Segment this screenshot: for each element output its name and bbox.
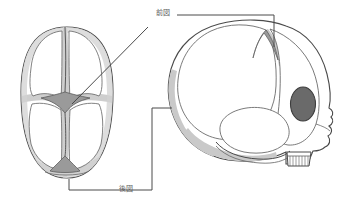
orbit-eye-socket <box>291 87 316 121</box>
skull-illustration-svg <box>0 0 347 208</box>
leader-posterior-tick <box>69 179 117 190</box>
label-anterior-fontanelle: 前図 <box>156 9 170 17</box>
maxilla-teeth-lateral <box>287 152 311 166</box>
temporal-bone-lateral <box>220 107 289 153</box>
label-posterior-fontanelle: 後図 <box>119 185 133 193</box>
parietal-plate-left <box>29 103 62 170</box>
anatomy-figure: 前図 後図 <box>0 0 347 208</box>
lateral-view-skull <box>168 20 332 166</box>
superior-view-skull <box>21 27 113 178</box>
leader-posterior-fontanelle <box>117 108 172 190</box>
